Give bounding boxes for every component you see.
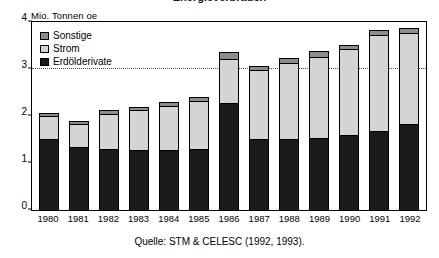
bar-segment [70, 148, 88, 210]
bar-segment [190, 150, 208, 210]
legend-label-strom: Strom [53, 43, 80, 54]
bar-segment [70, 125, 88, 148]
bar-segment [130, 151, 148, 210]
x-axis-labels: 1980198119821983198419851986198719881989… [31, 213, 427, 224]
bar-segment [130, 111, 148, 151]
stacked-bar[interactable] [69, 121, 89, 210]
bar-segment [250, 140, 268, 211]
source-caption: Quelle: STM & CELESC (1992, 1993). [0, 236, 439, 247]
bar-segment [220, 60, 238, 105]
plot-inner: 01234 Sonstige Strom Erdölderivate [32, 22, 426, 210]
bar-segment [370, 36, 388, 132]
stacked-bar[interactable] [39, 113, 59, 210]
x-tick-label: 1989 [304, 213, 334, 224]
legend-swatch-erdoelderivate [40, 58, 49, 66]
bar-column[interactable] [184, 22, 214, 210]
legend-swatch-strom [40, 45, 49, 53]
bar-segment [370, 132, 388, 210]
bar-segment [310, 139, 328, 210]
plot-area: 01234 Sonstige Strom Erdölderivate [31, 21, 427, 211]
bar-segment [310, 58, 328, 139]
stacked-bar[interactable] [279, 58, 299, 210]
stacked-bar[interactable] [399, 28, 419, 210]
bar-segment [100, 150, 118, 210]
bar-segment [340, 136, 358, 210]
bar-segment [220, 53, 238, 60]
stacked-bar[interactable] [369, 30, 389, 210]
stacked-bar[interactable] [339, 45, 359, 210]
stacked-bar[interactable] [309, 51, 329, 210]
chart-figure: Energieverbrauch Mio. Tonnen oe 01234 So… [0, 0, 439, 258]
stacked-bar[interactable] [159, 102, 179, 210]
x-tick-label: 1984 [154, 213, 184, 224]
x-tick-label: 1988 [274, 213, 304, 224]
x-tick-label: 1983 [123, 213, 153, 224]
legend-label-erdoelderivate: Erdölderivate [53, 56, 112, 67]
bar-column[interactable] [244, 22, 274, 210]
bar-segment [220, 104, 238, 210]
legend-item-sonstige: Sonstige [40, 30, 112, 41]
chart-title-text: Energieverbrauch [0, 0, 439, 3]
chart-title-cropped: Energieverbrauch [0, 0, 439, 7]
bar-segment [400, 34, 418, 126]
stacked-bar[interactable] [99, 110, 119, 210]
x-tick-label: 1991 [365, 213, 395, 224]
x-tick-label: 1986 [214, 213, 244, 224]
x-tick-label: 1981 [63, 213, 93, 224]
bar-segment [160, 151, 178, 210]
bar-column[interactable] [334, 22, 364, 210]
bar-segment [100, 115, 118, 150]
bar-column[interactable] [304, 22, 334, 210]
legend-label-sonstige: Sonstige [53, 30, 92, 41]
bar-column[interactable] [124, 22, 154, 210]
bar-column[interactable] [394, 22, 424, 210]
x-tick-label: 1990 [335, 213, 365, 224]
x-tick-label: 1980 [33, 213, 63, 224]
stacked-bar[interactable] [129, 107, 149, 210]
stacked-bar[interactable] [189, 97, 209, 210]
chart-legend: Sonstige Strom Erdölderivate [40, 30, 112, 67]
bar-column[interactable] [274, 22, 304, 210]
bar-segment [280, 140, 298, 211]
bar-segment [190, 102, 208, 150]
x-tick-label: 1992 [395, 213, 425, 224]
bar-column[interactable] [214, 22, 244, 210]
bar-segment [250, 71, 268, 139]
x-tick-label: 1987 [244, 213, 274, 224]
bar-segment [40, 140, 58, 211]
bar-segment [40, 117, 58, 139]
legend-item-erdoelderivate: Erdölderivate [40, 56, 112, 67]
stacked-bar[interactable] [219, 52, 239, 210]
x-tick-label: 1985 [184, 213, 214, 224]
x-tick-label: 1982 [93, 213, 123, 224]
bar-column[interactable] [364, 22, 394, 210]
bar-segment [400, 125, 418, 210]
bar-segment [160, 107, 178, 152]
y-axis-unit-label: Mio. Tonnen oe [31, 10, 97, 21]
bar-segment [340, 50, 358, 136]
stacked-bar[interactable] [249, 66, 269, 210]
legend-item-strom: Strom [40, 43, 112, 54]
legend-swatch-sonstige [40, 32, 49, 40]
bar-segment [280, 64, 298, 139]
bar-column[interactable] [154, 22, 184, 210]
